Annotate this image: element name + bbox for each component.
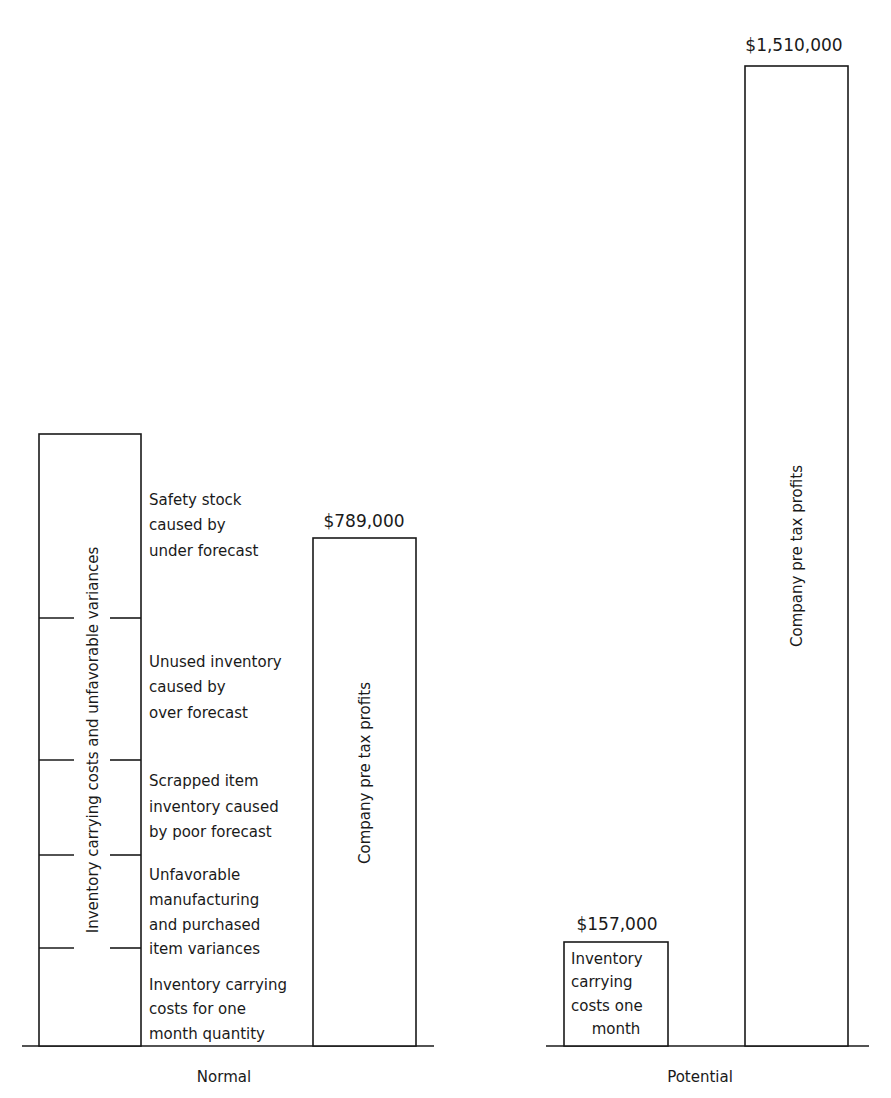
svg-text:Safety stock: Safety stock [149, 491, 242, 509]
svg-text:Inventory carrying: Inventory carrying [149, 976, 287, 994]
svg-text:Unfavorable: Unfavorable [149, 866, 240, 884]
svg-text:item variances: item variances [149, 940, 260, 958]
segment-label-unfavorable-variances: Unfavorable manufacturing and purchased … [149, 866, 260, 958]
svg-text:and purchased: and purchased [149, 916, 260, 934]
svg-text:Unused inventory: Unused inventory [149, 653, 282, 671]
svg-text:Scrapped item: Scrapped item [149, 772, 259, 790]
potential-inventory-value: $157,000 [576, 914, 657, 934]
svg-text:carrying: carrying [571, 973, 633, 991]
svg-text:caused by: caused by [149, 516, 226, 534]
chart-canvas: Inventory carrying costs and unfavorable… [0, 0, 891, 1098]
svg-text:by poor forecast: by poor forecast [149, 823, 272, 841]
segment-label-carrying-costs: Inventory carrying costs for one month q… [149, 976, 287, 1043]
svg-text:over forecast: over forecast [149, 704, 248, 722]
svg-text:costs one: costs one [571, 997, 643, 1015]
segment-label-unused-inventory: Unused inventory caused by over forecast [149, 653, 282, 722]
normal-profit-vertical-title: Company pre tax profits [356, 682, 374, 864]
svg-text:month: month [592, 1020, 641, 1038]
svg-text:costs for one: costs for one [149, 1000, 246, 1018]
svg-text:inventory caused: inventory caused [149, 798, 279, 816]
potential-profit-value: $1,510,000 [745, 35, 842, 55]
svg-text:manufacturing: manufacturing [149, 891, 259, 909]
svg-text:caused by: caused by [149, 678, 226, 696]
segment-label-scrapped-item: Scrapped item inventory caused by poor f… [149, 772, 279, 841]
potential-profit-vertical-title: Company pre tax profits [788, 465, 806, 647]
svg-text:Inventory: Inventory [571, 950, 643, 968]
svg-text:under forecast: under forecast [149, 542, 258, 560]
stack-vertical-title: Inventory carrying costs and unfavorable… [84, 547, 102, 934]
normal-profit-value: $789,000 [323, 511, 404, 531]
svg-text:month quantity: month quantity [149, 1025, 265, 1043]
category-potential: Potential [667, 1068, 733, 1086]
category-normal: Normal [197, 1068, 251, 1086]
segment-label-safety-stock: Safety stock caused by under forecast [149, 491, 258, 560]
